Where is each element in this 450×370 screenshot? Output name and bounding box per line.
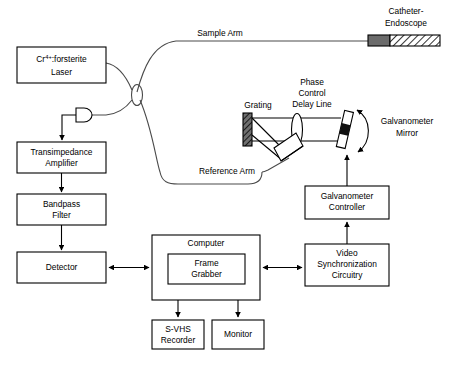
laser-output-fiber — [106, 63, 132, 90]
transimpedance-label-line1: Transimpedance — [30, 147, 92, 157]
sample-arm-label: Sample Arm — [197, 28, 243, 38]
galvo-mirror-label-line2: Mirror — [396, 128, 418, 138]
videosync-label-line2: Synchronization — [317, 259, 377, 269]
computer-label: Computer — [188, 238, 225, 248]
photodetector-lead — [62, 115, 76, 133]
frame-grabber-label-line2: Grabber — [191, 269, 222, 279]
catheter-tip-icon — [368, 35, 390, 46]
transimpedance-label-line2: Amplifier — [45, 158, 78, 168]
bandpass-label-line2: Filter — [52, 210, 71, 220]
galvocontroller-label-line1: Galvanometer — [321, 191, 374, 201]
videosync-label-line3: Circuitry — [332, 270, 364, 280]
catheter-sheath-icon — [390, 35, 440, 46]
svhs-label-line2: Recorder — [161, 335, 196, 345]
laser-label-line2: Laser — [51, 67, 72, 77]
phase-label-line3: Delay Line — [292, 99, 332, 109]
svhs-label-line1: S-VHS — [165, 324, 191, 334]
catheter-label-line1: Catheter- — [389, 6, 424, 16]
fiber-coupler-icon — [132, 85, 143, 106]
diffraction-grating-icon — [243, 113, 252, 146]
galvanometer-mirror-icon — [336, 110, 353, 148]
galvo-mirror-label-line1: Galvanometer — [381, 116, 434, 126]
laser-box[interactable] — [17, 47, 106, 83]
bandpass-label-line1: Bandpass — [43, 199, 80, 209]
prism-to-reference-fiber — [262, 158, 289, 172]
detector-return-fiber — [92, 100, 132, 115]
phase-label-line1: Phase — [300, 77, 324, 87]
mirror-rotation-arc — [357, 110, 368, 152]
oct-system-diagram: Cr4+:forsterite Laser Transimpedance Amp… — [0, 0, 450, 370]
prism-icon — [274, 133, 303, 161]
frame-grabber-label-line1: Frame — [194, 258, 219, 268]
diagram-canvas: Cr4+:forsterite Laser Transimpedance Amp… — [0, 0, 450, 370]
monitor-label: Monitor — [224, 329, 252, 339]
videosync-label-line1: Video — [336, 248, 358, 258]
reference-arm-label: Reference Arm — [199, 166, 255, 176]
sample-arm-fiber — [137, 41, 369, 92]
detector-label: Detector — [46, 262, 78, 272]
galvocontroller-label-line2: Controller — [329, 202, 366, 212]
laser-label-line1: Cr4+:forsterite — [36, 53, 87, 64]
grating-label: Grating — [244, 100, 272, 110]
photodetector-icon — [76, 108, 92, 122]
phase-label-line2: Control — [299, 88, 326, 98]
catheter-label-line2: Endoscope — [385, 18, 427, 28]
